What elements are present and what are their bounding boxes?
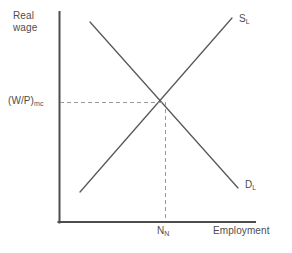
labour-market-diagram: Real wage (W/P)mc SL DL NN Employment xyxy=(0,0,292,253)
equilibrium-wage-subscript: mc xyxy=(34,100,43,107)
equilibrium-employment-label: NN xyxy=(157,225,169,238)
diagram-canvas xyxy=(0,0,292,253)
demand-curve-line xyxy=(90,22,238,188)
equilibrium-employment-subscript: N xyxy=(164,230,169,237)
equilibrium-wage-text: (W/P) xyxy=(8,95,34,106)
y-axis-title: Real wage xyxy=(13,10,57,33)
x-axis-title: Employment xyxy=(213,225,270,237)
equilibrium-wage-label: (W/P)mc xyxy=(8,95,43,108)
supply-curve-label: SL xyxy=(239,13,250,26)
supply-curve-text: S xyxy=(239,13,246,24)
supply-curve-line xyxy=(80,18,232,192)
supply-curve-subscript: L xyxy=(246,18,250,25)
demand-curve-subscript: L xyxy=(252,184,256,191)
demand-curve-label: DL xyxy=(245,179,256,192)
